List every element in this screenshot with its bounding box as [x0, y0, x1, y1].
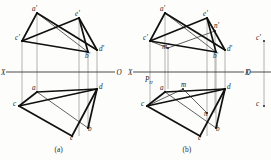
label-b-e: e	[198, 134, 202, 142]
edge-bottom-b-4	[216, 89, 225, 128]
label-b-a: a	[160, 84, 164, 92]
label-b-a-prime: a'	[160, 5, 166, 13]
panel-c-partial: c'cX	[244, 34, 271, 108]
label-b-n-prime: n'	[214, 22, 220, 30]
label-a-a-prime: a'	[32, 5, 38, 13]
caption-a: (a)	[55, 145, 64, 154]
caption-b: (b)	[183, 145, 192, 154]
label-a-e: e	[70, 134, 74, 142]
edge-bottom-b-2	[147, 106, 200, 136]
edge-bottom-a-2	[19, 106, 72, 136]
edge-top-a-5	[79, 18, 88, 52]
point-b-n-prime	[214, 30, 216, 32]
edge-bottom-a-4	[88, 89, 97, 128]
edge-top-a-0	[22, 13, 37, 41]
label-a-d: d	[99, 83, 103, 91]
point-a-d-prime	[96, 49, 98, 51]
edge-top-a-4	[22, 41, 88, 52]
point-a-c-prime	[21, 40, 23, 42]
label-a-b-prime: b'	[85, 52, 91, 60]
point-a-d	[96, 88, 98, 90]
label-b-d: d	[227, 83, 231, 91]
edge-bottom-a-3	[72, 89, 97, 136]
point-a-a	[36, 91, 38, 93]
panel-a: a'e'c'b'd'adcbeXO(a)	[0, 5, 123, 154]
label-a-c-prime: c'	[15, 34, 20, 42]
axis-label-x-b: X	[127, 69, 133, 77]
label-a-a: a	[32, 84, 36, 92]
axis-label-x-a: X	[0, 69, 6, 77]
point-a-c	[18, 105, 20, 107]
figure-root: a'e'c'b'd'adcbeXO(a)a'e'n'c'm'b'd'amdcnb…	[0, 0, 271, 160]
point-b-a	[164, 91, 166, 93]
thin-edge-bottom-b-0	[165, 92, 216, 128]
axis-label-o-a: O	[117, 69, 123, 77]
label-a-e-prime: e'	[75, 10, 80, 18]
label-a-d-prime: d'	[99, 45, 105, 53]
label-b-c-prime: c'	[143, 34, 148, 42]
label-c-partial-c-prime: c'	[256, 34, 261, 42]
projection-figure-svg: a'e'c'b'd'adcbeXO(a)a'e'n'c'm'b'd'amdcnb…	[0, 0, 271, 160]
point-c-partial-c-prime	[263, 40, 265, 42]
label-b-m: m	[181, 81, 186, 89]
label-a-c: c	[13, 100, 17, 108]
label-a-b: b	[88, 125, 92, 133]
label-b-b: b	[216, 125, 220, 133]
axis-label-x-c-partial: X	[244, 69, 250, 77]
label-b-c: c	[141, 100, 145, 108]
trace-label-sub-b: H	[148, 80, 153, 85]
label-c-partial-c: c	[256, 100, 260, 108]
panel-b: a'e'n'c'm'b'd'amdcnbeXOPH(b)	[127, 5, 252, 154]
point-b-d-prime	[224, 49, 226, 51]
point-b-d	[224, 88, 226, 90]
thin-edge-bottom-a-0	[37, 92, 88, 128]
edge-top-b-0	[150, 13, 165, 41]
point-b-c	[146, 105, 148, 107]
point-c-partial-c	[263, 105, 265, 107]
label-b-d-prime: d'	[227, 45, 233, 53]
label-b-m-prime: m'	[162, 43, 169, 51]
label-b-e-prime: e'	[203, 10, 208, 18]
label-b-b-prime: b'	[213, 52, 219, 60]
point-b-c-prime	[149, 40, 151, 42]
label-b-n: n	[204, 110, 208, 118]
